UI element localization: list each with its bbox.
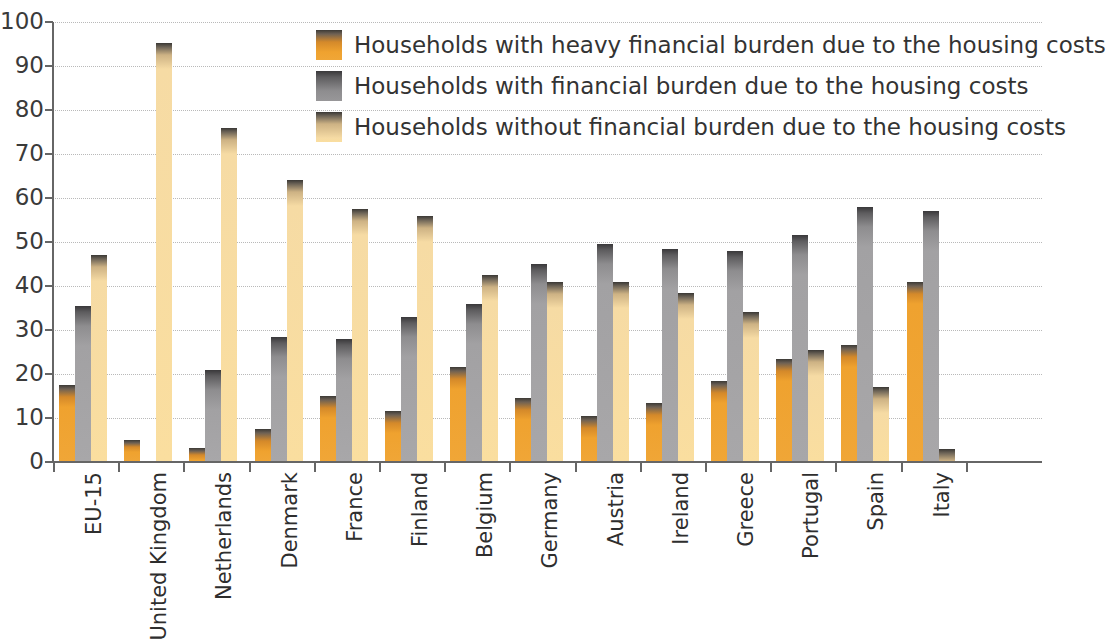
y-axis-tick-labels: 0102030405060708090100 [0,0,44,639]
x-axis-tick-mark [640,461,642,472]
y-axis-tick-label: 100 [0,10,44,33]
gridline [53,154,1042,155]
bar [711,381,727,462]
x-axis-tick-mark [379,461,381,472]
bar [59,385,75,462]
bar [336,339,352,462]
bar [678,293,694,462]
bar [873,387,889,462]
bar [156,43,172,462]
bar [450,367,466,462]
bar [75,306,91,462]
legend-item[interactable]: Households without financial burden due … [316,110,1066,144]
y-axis-tick-label: 40 [0,274,44,297]
bar [547,282,563,462]
x-axis-category-label: Germany [540,472,561,569]
y-axis-tick-mark [45,417,53,419]
bar [923,211,939,462]
bar [91,255,107,462]
legend-item[interactable]: Households with financial burden due to … [316,69,1028,103]
bar [792,235,808,462]
x-axis-tick-mark [314,461,316,472]
gridline [53,22,1042,23]
y-axis-tick-mark [45,21,53,23]
y-axis-tick-label: 0 [0,450,44,473]
bar [401,317,417,462]
x-axis-tick-mark [901,461,903,472]
bar [255,429,271,462]
bar [841,345,857,462]
bar [646,403,662,462]
y-axis-tick-label: 30 [0,318,44,341]
x-axis-tick-mark [183,461,185,472]
x-axis-tick-mark [705,461,707,472]
x-axis-tick-mark [249,461,251,472]
x-axis-category-label: Belgium [475,472,496,558]
bar [189,448,205,462]
x-axis-line [53,461,1042,463]
y-axis-tick-mark [45,197,53,199]
x-axis-category-label: France [345,472,366,542]
x-axis-category-label: Austria [606,472,627,546]
y-axis-tick-mark [45,109,53,111]
legend-swatch-icon [316,30,342,60]
y-axis-tick-mark [45,65,53,67]
y-axis-tick-label: 90 [0,54,44,77]
y-axis-tick-mark [45,373,53,375]
bar [482,275,498,462]
legend-item[interactable]: Households with heavy financial burden d… [316,28,1106,62]
bar [385,411,401,462]
y-axis-tick-label: 60 [0,186,44,209]
x-axis-tick-mark [835,461,837,472]
legend-item-label: Households with heavy financial burden d… [354,34,1106,57]
bar [287,180,303,462]
bar [613,282,629,462]
x-axis-tick-mark [966,461,968,472]
x-axis-category-label: Denmark [280,472,301,569]
y-axis-tick-mark [45,241,53,243]
bar [352,209,368,462]
bar [776,359,792,462]
x-axis-category-label: Ireland [671,472,692,545]
x-axis-tick-mark [575,461,577,472]
x-axis-tick-mark [770,461,772,472]
bar [205,370,221,462]
bar [743,312,759,462]
bar [581,416,597,462]
bar [124,440,140,462]
y-axis-tick-label: 50 [0,230,44,253]
legend-swatch-icon [316,71,342,101]
bar [320,396,336,462]
x-axis-category-label: Portugal [801,472,822,559]
gridline [53,66,1042,67]
bar [727,251,743,462]
x-axis-category-label: Greece [736,472,757,547]
y-axis-tick-mark [45,461,53,463]
bar [531,264,547,462]
gridline [53,198,1042,199]
x-axis-category-label: Finland [410,472,431,547]
bar [662,249,678,462]
bar [221,128,237,462]
bar [417,216,433,462]
x-axis-category-label: EU-15 [84,472,105,535]
x-axis-category-label: Netherlands [214,472,235,600]
bar [466,304,482,462]
bar [597,244,613,462]
y-axis-tick-mark [45,153,53,155]
y-axis-tick-label: 10 [0,406,44,429]
bar [857,207,873,462]
x-axis-category-label: Spain [866,472,887,531]
x-axis-tick-mark [509,461,511,472]
x-axis-tick-mark [53,461,55,472]
y-axis-tick-mark [45,285,53,287]
y-axis-tick-label: 80 [0,98,44,121]
bar [907,282,923,462]
x-axis-tick-mark [118,461,120,472]
legend-item-label: Households with financial burden due to … [354,75,1028,98]
bar [515,398,531,462]
legend-item-label: Households without financial burden due … [354,116,1066,139]
bar [271,337,287,462]
legend-swatch-icon [316,112,342,142]
